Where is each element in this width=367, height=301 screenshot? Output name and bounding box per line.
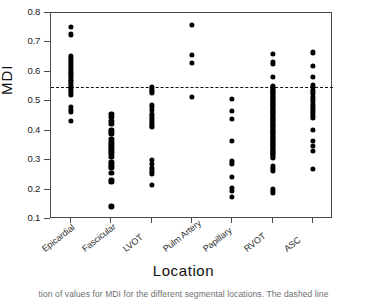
x-axis-tick	[272, 218, 273, 223]
figure-container: 0.80.70.60.50.40.30.20.1 MDI EpicardialF…	[0, 0, 367, 301]
reference-line	[51, 87, 333, 88]
data-point	[270, 155, 275, 160]
data-point	[149, 90, 154, 95]
y-axis-tick	[44, 218, 50, 219]
y-axis-tick	[44, 41, 50, 42]
y-axis-tick	[44, 71, 50, 72]
data-point	[230, 96, 235, 101]
data-point	[109, 170, 114, 175]
y-axis-tick	[44, 12, 50, 13]
data-point	[109, 204, 114, 209]
data-point	[310, 63, 315, 68]
data-point	[69, 118, 74, 123]
x-axis-tick	[312, 218, 313, 223]
y-axis-tick-label: 0.2	[10, 183, 40, 194]
y-axis-tick-label: 0.4	[10, 124, 40, 135]
data-point	[69, 92, 74, 97]
y-axis-tick-label: 0.1	[10, 212, 40, 223]
y-axis-tick	[44, 159, 50, 160]
data-point	[230, 116, 235, 121]
data-point	[69, 32, 74, 37]
x-axis-tick	[231, 218, 232, 223]
data-point	[230, 139, 235, 144]
data-point	[310, 74, 315, 79]
x-axis-tick	[151, 218, 152, 223]
y-axis-title: MDI	[0, 65, 15, 96]
data-point	[109, 180, 114, 185]
data-point	[230, 194, 235, 199]
data-point	[270, 75, 275, 80]
data-point	[270, 51, 275, 56]
data-point	[189, 22, 194, 27]
data-point	[149, 125, 154, 130]
data-point	[230, 188, 235, 193]
data-point	[189, 95, 194, 100]
data-point	[69, 24, 74, 29]
data-point	[310, 148, 315, 153]
data-point	[310, 127, 315, 132]
data-point	[189, 60, 194, 65]
y-axis-tick	[44, 189, 50, 190]
x-axis-tick-label: Papillary	[201, 225, 234, 254]
y-axis-tick-label: 0.3	[10, 153, 40, 164]
y-axis-tick	[44, 100, 50, 101]
data-point	[310, 50, 315, 55]
data-point	[270, 61, 275, 66]
x-axis-title: Location	[0, 262, 367, 279]
y-axis-tick	[44, 130, 50, 131]
data-point	[230, 108, 235, 113]
data-point	[270, 168, 275, 173]
data-point	[149, 183, 154, 188]
y-axis-tick-label: 0.7	[10, 35, 40, 46]
data-point	[230, 161, 235, 166]
data-point	[109, 121, 114, 126]
data-point	[310, 115, 315, 120]
x-axis-tick-label: Epicardial	[40, 222, 77, 254]
y-axis-tick-label: 0.8	[10, 6, 40, 17]
data-point	[189, 52, 194, 57]
figure-caption: tion of values for MDI for the different…	[0, 289, 367, 301]
x-axis-tick-label: Fascicular	[80, 221, 118, 254]
x-axis-tick-label: ASC	[282, 235, 303, 254]
plot-area	[50, 12, 332, 218]
data-point	[230, 175, 235, 180]
x-axis-tick-label: LVOT	[121, 232, 145, 254]
x-axis-tick-label: Pulm Artery	[161, 218, 203, 254]
data-point	[149, 172, 154, 177]
data-point	[310, 166, 315, 171]
data-point	[270, 191, 275, 196]
data-point	[69, 109, 74, 114]
y-axis-tick-label: 0.5	[10, 94, 40, 105]
x-axis-tick-label: RVOT	[242, 231, 267, 254]
